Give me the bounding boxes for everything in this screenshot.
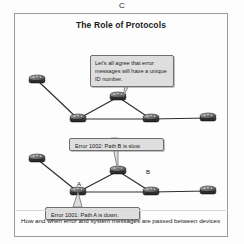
figure-caption: How and when error and system messages a… xyxy=(21,217,223,225)
network-link xyxy=(37,80,78,119)
figure-letter: C xyxy=(0,1,244,10)
callout-unique-id: Let's all agree that error messages will… xyxy=(90,55,174,87)
node-label-a: A xyxy=(77,181,81,187)
router-icon xyxy=(143,187,159,195)
router-icon xyxy=(29,75,45,83)
network-link xyxy=(151,191,208,192)
figure-frame: The Role of Protocols xyxy=(14,13,228,237)
router-icon xyxy=(29,154,45,162)
router-icon xyxy=(70,114,86,122)
network-link xyxy=(37,159,78,192)
callout-error-1002: Error 1002: Path B is slow. xyxy=(69,138,164,151)
router-icon xyxy=(200,186,216,194)
link-group-bottom xyxy=(37,159,208,192)
node-label-b: B xyxy=(146,169,150,175)
network-diagram-canvas: Let's all agree that error messages will… xyxy=(15,14,227,236)
network-link xyxy=(151,118,208,119)
network-graphics xyxy=(15,14,229,238)
router-icon xyxy=(200,113,216,121)
caption-divider xyxy=(16,210,228,211)
figure-root: C The Role of Protocols xyxy=(0,0,244,244)
router-icon xyxy=(143,114,159,122)
